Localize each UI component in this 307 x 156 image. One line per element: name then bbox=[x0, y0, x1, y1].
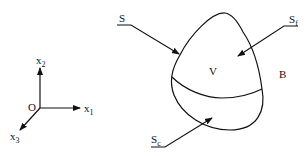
volume-label: V bbox=[209, 65, 217, 77]
body-diagram: O x1 x2 x3 V B S Sf Sc bbox=[0, 0, 307, 156]
body-label: B bbox=[279, 68, 286, 80]
contact-boundary-curve bbox=[172, 77, 262, 98]
coordinate-axes: O x1 x2 x3 bbox=[10, 54, 94, 145]
x3-label: x3 bbox=[10, 130, 20, 145]
x1-label: x1 bbox=[84, 102, 94, 117]
origin-label: O bbox=[28, 101, 36, 113]
sc-label: Sc bbox=[151, 133, 161, 148]
surface-pointer: S bbox=[117, 12, 179, 54]
x2-label: x2 bbox=[36, 54, 46, 69]
contact-surface-pointer: Sc bbox=[151, 118, 212, 148]
surface-label: S bbox=[119, 12, 125, 24]
traction-surface-pointer: Sf bbox=[238, 13, 298, 56]
body-outline bbox=[172, 13, 263, 130]
